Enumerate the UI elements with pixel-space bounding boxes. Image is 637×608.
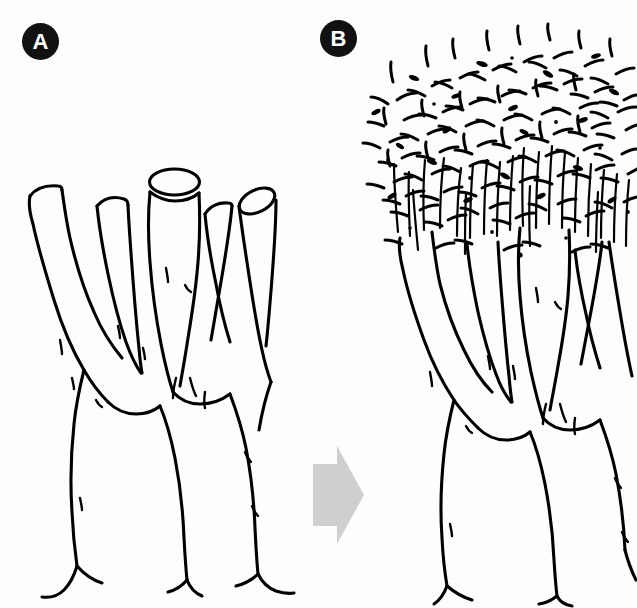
pruning-regrowth-figure: A B	[0, 0, 637, 608]
progression-arrow-region	[310, 442, 366, 548]
panel-b-region	[358, 14, 637, 608]
panel-label-a: A	[22, 23, 59, 60]
panel-a-region	[14, 150, 304, 608]
panel-label-b: B	[320, 20, 357, 57]
